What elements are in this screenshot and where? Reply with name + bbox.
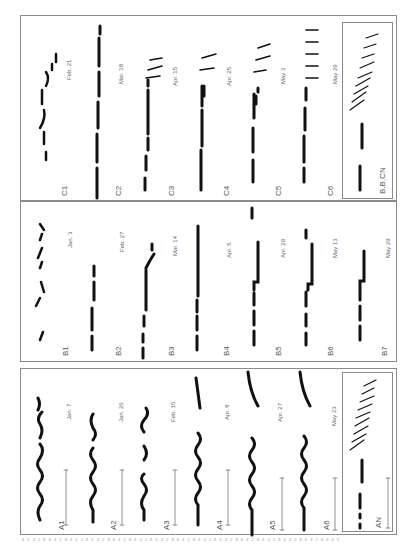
row-date-b5: Apr. 29 (280, 239, 286, 258)
row-date-a3: Feb. 15 (170, 402, 176, 422)
row-date-a6: May 23 (331, 406, 337, 426)
trace-c5 (253, 88, 258, 182)
row-label-a4: A4 (215, 520, 224, 530)
row-date-c6: May 29 (332, 64, 338, 84)
row-label-c6: C6 (326, 186, 335, 196)
spectrogram-traces (0, 0, 415, 553)
row-label-b1: B1 (61, 346, 70, 356)
trace-a6 (300, 372, 310, 530)
row-date-c3: Apr. 15 (172, 67, 178, 86)
row-label-a3: A3 (162, 520, 171, 530)
row-label-b3: B3 (167, 346, 176, 356)
row-date-b7: May 29 (385, 238, 391, 258)
row-date-c4: Apr. 25 (226, 67, 232, 86)
trace-c3 (145, 80, 148, 190)
row-label-b2: B2 (114, 346, 123, 356)
row-date-a2: Jan. 26 (118, 402, 124, 422)
row-label-a2: A2 (109, 520, 118, 530)
trace-a2 (91, 414, 96, 522)
frequency-axis-ticks: 8 6 4 2 8 6 4 2 8 6 4 2 8 6 4 2 8 6 4 2 … (22, 537, 394, 543)
row-label-c3: C3 (167, 186, 176, 196)
row-date-b3: Mar. 14 (172, 236, 178, 256)
row-label-b5: B5 (274, 346, 283, 356)
trace-b3 (143, 244, 154, 358)
trace-a1 (38, 398, 43, 520)
trace-a5 (248, 372, 258, 535)
row-label-c5: C5 (274, 186, 283, 196)
trace-c2 (97, 26, 100, 198)
inset-label-bbcn: B.B.CN (378, 167, 387, 194)
row-date-b2: Feb. 27 (119, 232, 125, 252)
trace-c6 (304, 88, 306, 182)
row-date-a1: Jan. 7 (66, 404, 72, 420)
row-label-a5: A5 (268, 520, 277, 530)
trace-b5 (252, 208, 258, 345)
row-label-a1: A1 (57, 520, 66, 530)
row-label-c1: C1 (60, 186, 69, 196)
trace-a3 (142, 408, 148, 520)
trace-an-sweeps (350, 380, 376, 450)
row-label-c4: C4 (222, 186, 231, 196)
row-date-c5: May 3 (280, 68, 286, 84)
row-date-c2: Mar. 18 (118, 64, 124, 84)
trace-bbcn (360, 124, 362, 190)
row-label-b6: B6 (326, 346, 335, 356)
row-date-a4: Apr. 8 (224, 404, 230, 420)
row-label-b7: B7 (380, 346, 389, 356)
trace-c4 (201, 86, 204, 190)
row-date-b4: Apr. 5 (226, 242, 232, 258)
trace-an (360, 460, 362, 528)
row-label-a6: A6 (322, 520, 331, 530)
trace-b2 (92, 266, 94, 350)
row-date-b6: May 13 (332, 238, 338, 258)
row-date-b1: Jan. 3 (67, 232, 73, 248)
trace-b6 (306, 230, 312, 345)
trace-b1 (36, 224, 44, 340)
row-date-a5: Apr. 27 (277, 403, 283, 422)
trace-b4 (197, 226, 198, 350)
inset-label-an: AN (374, 517, 383, 528)
trace-b7 (360, 251, 364, 340)
row-label-b4: B4 (222, 346, 231, 356)
row-label-c2: C2 (114, 186, 123, 196)
row-date-c1: Feb. 21 (66, 60, 72, 80)
trace-bbcn-sweeps (350, 34, 378, 110)
trace-a4 (196, 378, 201, 525)
trace-c1 (40, 54, 56, 160)
